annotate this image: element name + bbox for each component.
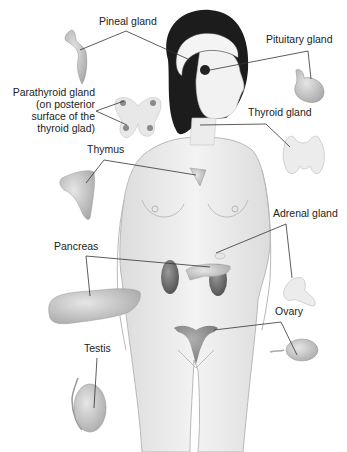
label-thyroid-gland: Thyroid gland — [248, 106, 312, 118]
pituitary-internal — [200, 65, 210, 75]
label-pituitary-gland: Pituitary gland — [266, 33, 333, 45]
parathyroid-line-1: Parathyroid gland — [11, 86, 95, 98]
endocrine-diagram — [0, 0, 347, 452]
pineal-gland-illustration — [65, 30, 87, 84]
thyroid-gland-illustration — [283, 136, 324, 173]
testis-illustration — [72, 378, 106, 432]
adrenal-internal — [215, 253, 225, 259]
adrenal-gland-illustration — [284, 278, 316, 307]
ovary-illustration — [270, 339, 318, 361]
label-pancreas: Pancreas — [54, 240, 98, 252]
label-pineal-gland: Pineal gland — [99, 15, 157, 27]
human-body-figure — [117, 10, 270, 452]
parathyroid-gland-illustration — [115, 98, 161, 138]
label-adrenal-gland: Adrenal gland — [273, 207, 338, 219]
label-testis: Testis — [84, 342, 111, 354]
thymus-illustration — [60, 171, 95, 220]
label-parathyroid-gland: Parathyroid gland (on posterior surface … — [11, 86, 95, 134]
label-thymus: Thymus — [87, 143, 124, 155]
parathyroid-line-4: thyroid glad) — [11, 122, 95, 134]
torso — [120, 138, 270, 452]
parathyroid-line-3: surface of the — [11, 110, 95, 122]
pituitary-gland-illustration — [295, 69, 324, 102]
kidney-left — [161, 260, 179, 294]
neck — [190, 118, 216, 145]
parathyroid-line-2: (on posterior — [11, 98, 95, 110]
label-ovary: Ovary — [275, 305, 303, 317]
